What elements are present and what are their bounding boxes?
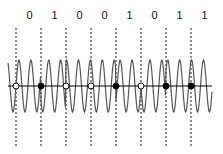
bit-label: 0 bbox=[76, 9, 82, 21]
bit-label: 1 bbox=[176, 9, 182, 21]
filled-circle-marker-icon bbox=[113, 83, 119, 89]
open-circle-marker-icon bbox=[88, 83, 94, 89]
bit-labels: 01001011 bbox=[26, 9, 207, 21]
filled-circle-marker-icon bbox=[163, 83, 169, 89]
bit-label: 0 bbox=[101, 9, 107, 21]
filled-circle-marker-icon bbox=[38, 83, 44, 89]
bit-label: 1 bbox=[201, 9, 207, 21]
open-circle-marker-icon bbox=[63, 83, 69, 89]
bit-label: 0 bbox=[26, 9, 32, 21]
bit-label: 1 bbox=[51, 9, 57, 21]
waveform-diagram: 01001011 bbox=[0, 0, 223, 154]
filled-circle-marker-icon bbox=[188, 83, 194, 89]
open-circle-marker-icon bbox=[138, 83, 144, 89]
open-circle-marker-icon bbox=[13, 83, 19, 89]
bit-label: 1 bbox=[126, 9, 132, 21]
bit-label: 0 bbox=[151, 9, 157, 21]
